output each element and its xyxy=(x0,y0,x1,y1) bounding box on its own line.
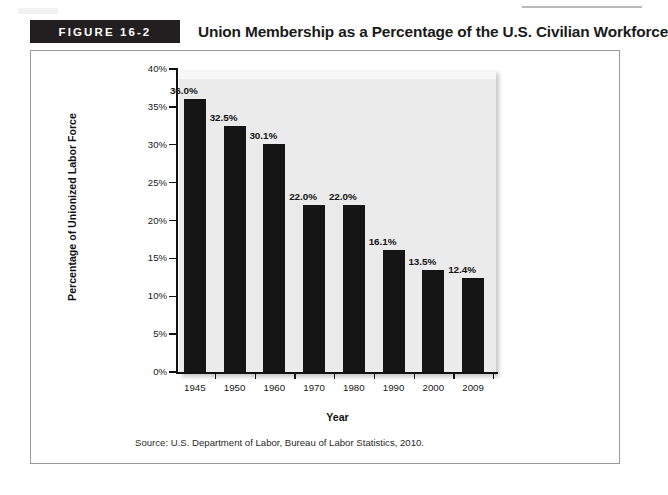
figure-title: Union Membership as a Percentage of the … xyxy=(198,20,668,43)
figure-header: FIGURE 16-2 Union Membership as a Percen… xyxy=(30,20,622,46)
bar-value-label: 12.4% xyxy=(448,264,476,275)
bar xyxy=(263,144,285,372)
figure-number-badge: FIGURE 16-2 xyxy=(30,20,180,43)
y-axis-tick-label: 40% xyxy=(135,63,167,74)
x-axis-tick xyxy=(255,373,256,379)
x-axis-tick xyxy=(493,373,494,379)
figure-number-label: FIGURE 16-2 xyxy=(59,26,152,38)
y-axis-tick-labels: 0%5%10%15%20%25%30%35%40% xyxy=(127,51,167,391)
y-axis-tick xyxy=(169,371,176,372)
bar-value-label: 36.0% xyxy=(170,85,198,96)
y-axis-tick xyxy=(169,144,176,145)
y-axis-tick-label: 15% xyxy=(135,252,167,263)
x-axis-tick-label: 1960 xyxy=(255,382,295,393)
source-note: Source: U.S. Department of Labor, Bureau… xyxy=(135,437,424,448)
y-axis-tick xyxy=(169,258,176,259)
bar-value-label: 16.1% xyxy=(369,236,397,247)
bar xyxy=(224,126,246,372)
bar xyxy=(462,278,484,372)
x-axis-tick xyxy=(374,373,375,379)
y-axis-tick xyxy=(169,182,176,183)
y-axis-tick xyxy=(169,333,176,334)
x-axis-tick xyxy=(414,373,415,379)
bar-value-label: 22.0% xyxy=(329,191,357,202)
y-axis-tick-label: 30% xyxy=(135,139,167,150)
y-axis-tick-label: 25% xyxy=(135,177,167,188)
x-axis-tick-label: 1945 xyxy=(175,382,215,393)
x-axis-tick xyxy=(215,373,216,379)
bar xyxy=(303,205,325,372)
bar-value-label: 30.1% xyxy=(249,130,277,141)
y-axis-tick-label: 20% xyxy=(135,215,167,226)
x-axis-tick-label: 1950 xyxy=(215,382,255,393)
y-axis-tick-label: 10% xyxy=(135,290,167,301)
x-axis-tick-label: 1970 xyxy=(294,382,334,393)
bar-value-label: 13.5% xyxy=(408,256,436,267)
y-axis-tick-label: 0% xyxy=(135,366,167,377)
x-axis-tick-label: 2000 xyxy=(414,382,454,393)
bar-chart: 0%5%10%15%20%25%30%35%40% 36.0%32.5%30.1… xyxy=(31,51,621,465)
y-axis-tick-label: 35% xyxy=(135,101,167,112)
y-axis-tick xyxy=(169,68,176,69)
y-axis-tick xyxy=(169,106,176,107)
x-axis-line xyxy=(176,372,498,374)
x-axis-tick-label: 1980 xyxy=(334,382,374,393)
x-axis-tick xyxy=(334,373,335,379)
bar xyxy=(383,250,405,372)
x-axis-title: Year xyxy=(179,411,496,423)
y-axis-title: Percentage of Unionized Labor Force xyxy=(66,102,78,312)
x-axis-tick xyxy=(453,373,454,379)
y-axis-tick xyxy=(169,220,176,221)
figure-frame: 0%5%10%15%20%25%30%35%40% 36.0%32.5%30.1… xyxy=(30,50,620,464)
plot-area-highlight xyxy=(179,70,496,79)
bar-value-label: 32.5% xyxy=(210,112,238,123)
scan-artifact-top-left xyxy=(18,8,58,14)
bar xyxy=(343,205,365,372)
x-axis-tick-label: 2009 xyxy=(453,382,493,393)
bar-value-label: 22.0% xyxy=(289,191,317,202)
bar xyxy=(422,270,444,372)
y-axis-tick-label: 5% xyxy=(135,328,167,339)
scan-artifact-top-right xyxy=(522,6,642,8)
x-axis-tick xyxy=(294,373,295,379)
bar xyxy=(184,99,206,372)
x-axis-tick-label: 1990 xyxy=(374,382,414,393)
y-axis-line xyxy=(176,68,178,374)
y-axis-tick xyxy=(169,296,176,297)
